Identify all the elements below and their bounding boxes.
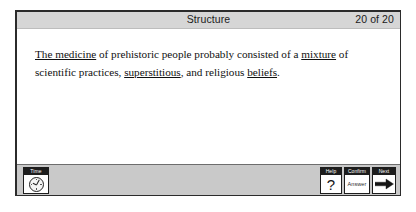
- underlined-phrase[interactable]: mixture: [301, 48, 336, 60]
- exam-window: Structure 20 of 20 The medicine of prehi…: [15, 10, 401, 196]
- confirm-button-label: Answer: [348, 181, 367, 187]
- bottom-toolbar: Time Help ? Confirm Answer Ne: [17, 164, 400, 195]
- next-button-body: [373, 175, 395, 193]
- question-sentence: The medicine of prehistoric people proba…: [35, 46, 382, 81]
- plain-phrase: of prehistoric people probably consisted…: [96, 48, 301, 60]
- question-counter: 20 of 20: [355, 13, 394, 25]
- help-button-caption: Help: [321, 168, 341, 175]
- confirm-button-caption: Confirm: [345, 168, 369, 175]
- help-button[interactable]: Help ?: [320, 167, 342, 194]
- plain-phrase: , and religious: [181, 66, 248, 78]
- next-button-caption: Next: [373, 168, 395, 175]
- page-title: Structure: [17, 13, 400, 25]
- header-bar: Structure 20 of 20: [17, 12, 400, 29]
- help-button-body: ?: [321, 175, 341, 193]
- time-tool-body: [24, 175, 48, 193]
- underlined-phrase[interactable]: superstitious: [124, 66, 181, 78]
- plain-phrase: .: [277, 66, 280, 78]
- question-mark-icon: ?: [327, 177, 335, 192]
- time-tool-caption: Time: [24, 168, 48, 175]
- underlined-phrase[interactable]: The medicine: [35, 48, 96, 60]
- confirm-button-body: Answer: [345, 175, 369, 193]
- confirm-answer-button[interactable]: Confirm Answer: [344, 167, 370, 194]
- underlined-phrase[interactable]: beliefs: [247, 66, 277, 78]
- clock-icon: [29, 177, 44, 192]
- next-button[interactable]: Next: [372, 167, 396, 194]
- content-area: The medicine of prehistoric people proba…: [17, 29, 400, 165]
- right-arrow-icon: [375, 178, 394, 190]
- time-tool[interactable]: Time: [23, 167, 49, 194]
